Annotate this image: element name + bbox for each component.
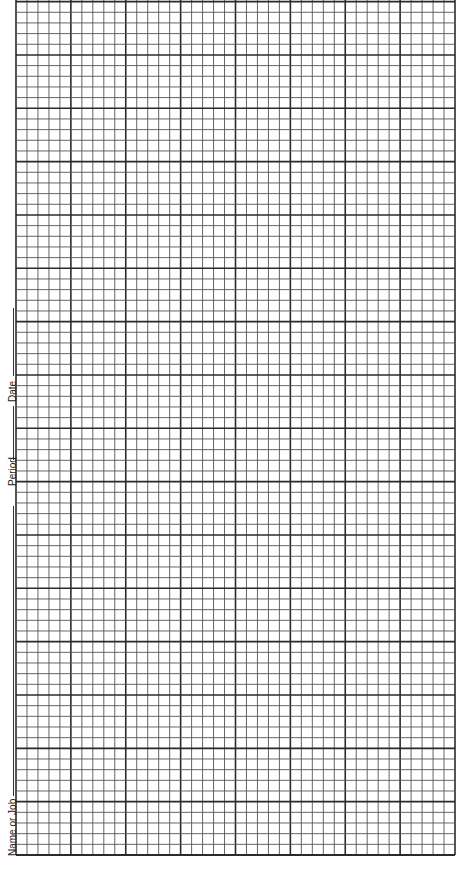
grid xyxy=(0,0,460,870)
date-label: Date xyxy=(8,381,18,402)
date-field-line[interactable] xyxy=(13,308,14,376)
period-field-line[interactable] xyxy=(13,406,14,460)
name-or-job-label: Name or Job xyxy=(8,799,18,856)
name-or-job-field-line[interactable] xyxy=(13,506,14,796)
period-label: Period xyxy=(8,457,18,486)
graph-paper-sheet: Date Period Name or Job xyxy=(0,0,460,870)
